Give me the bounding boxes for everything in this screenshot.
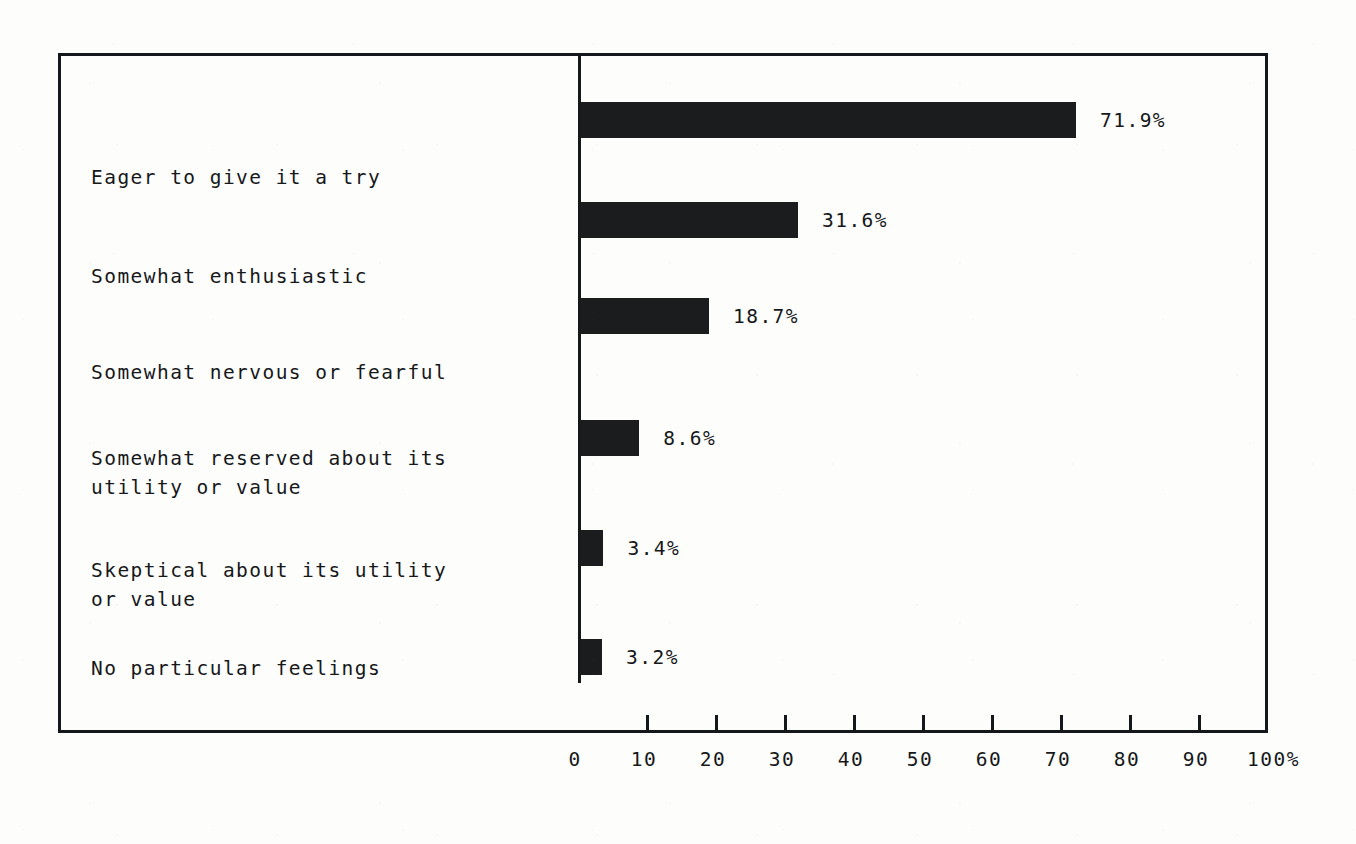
chart-frame: Eager to give it a try Somewhat enthusia… bbox=[58, 53, 1268, 733]
bar-skeptical bbox=[580, 530, 603, 566]
x-axis-tick-labels: 0102030405060708090100% bbox=[58, 748, 1318, 788]
bar-eager-to-give-it-a-try bbox=[580, 102, 1076, 138]
x-tick-label-60: 60 bbox=[976, 748, 1002, 771]
bar-somewhat-enthusiastic bbox=[580, 202, 798, 238]
document-page: Eager to give it a try Somewhat enthusia… bbox=[0, 0, 1356, 844]
x-tick-50 bbox=[922, 715, 925, 730]
x-tick-80 bbox=[1129, 715, 1132, 730]
bar-value-label-1: 31.6% bbox=[822, 209, 888, 232]
category-label-5: No particular feelings bbox=[91, 654, 561, 683]
category-label-1: Somewhat enthusiastic bbox=[91, 262, 561, 291]
bar-somewhat-reserved bbox=[580, 420, 639, 456]
x-tick-label-30: 30 bbox=[769, 748, 795, 771]
x-tick-30 bbox=[784, 715, 787, 730]
bar-no-particular-feelings bbox=[580, 639, 602, 675]
y-axis-line bbox=[578, 56, 581, 683]
category-label-column: Eager to give it a try Somewhat enthusia… bbox=[61, 56, 578, 730]
bar-value-label-2: 18.7% bbox=[733, 305, 799, 328]
x-tick-label-0: 0 bbox=[568, 748, 581, 771]
bar-value-label-4: 3.4% bbox=[627, 537, 680, 560]
x-tick-90 bbox=[1198, 715, 1201, 730]
category-label-2: Somewhat nervous or fearful bbox=[91, 358, 561, 387]
x-tick-label-20: 20 bbox=[700, 748, 726, 771]
plot-area: 71.9% 31.6% 18.7% 8.6% 3.4% 3.2% bbox=[578, 56, 1268, 730]
x-tick-label-10: 10 bbox=[631, 748, 657, 771]
category-label-3: Somewhat reserved about its utility or v… bbox=[91, 444, 561, 502]
x-tick-40 bbox=[853, 715, 856, 730]
category-label-4: Skeptical about its utility or value bbox=[91, 556, 561, 614]
x-tick-label-50: 50 bbox=[907, 748, 933, 771]
category-label-0: Eager to give it a try bbox=[91, 163, 561, 192]
bar-value-label-0: 71.9% bbox=[1100, 109, 1166, 132]
x-tick-70 bbox=[1060, 715, 1063, 730]
x-tick-label-100: 100% bbox=[1247, 748, 1300, 771]
bar-value-label-3: 8.6% bbox=[663, 427, 716, 450]
bar-somewhat-nervous-or-fearful bbox=[580, 298, 709, 334]
bar-value-label-5: 3.2% bbox=[626, 646, 679, 669]
x-tick-label-40: 40 bbox=[838, 748, 864, 771]
x-tick-20 bbox=[715, 715, 718, 730]
x-tick-label-80: 80 bbox=[1114, 748, 1140, 771]
x-tick-label-90: 90 bbox=[1183, 748, 1209, 771]
x-tick-10 bbox=[646, 715, 649, 730]
x-tick-60 bbox=[991, 715, 994, 730]
x-tick-label-70: 70 bbox=[1045, 748, 1071, 771]
